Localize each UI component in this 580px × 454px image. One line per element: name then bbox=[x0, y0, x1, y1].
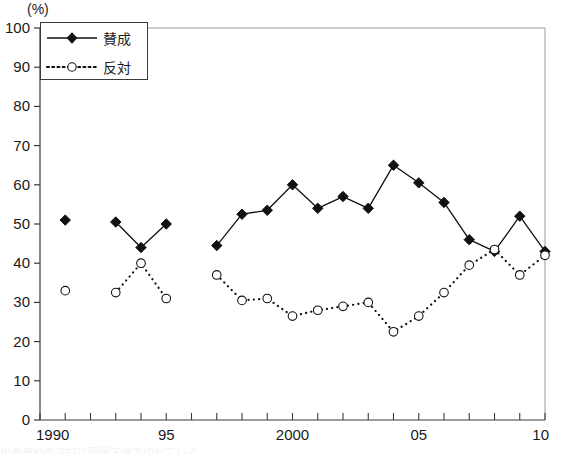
y-tick-label: 90 bbox=[0, 58, 30, 75]
legend-marker-open-circle-icon bbox=[41, 57, 103, 77]
x-tick-label: 1990 bbox=[36, 426, 69, 443]
y-tick-label: 70 bbox=[0, 137, 30, 154]
x-tick-label: 05 bbox=[410, 426, 427, 443]
y-tick-label: 20 bbox=[0, 333, 30, 350]
chart-axes bbox=[34, 28, 545, 420]
legend-item-approve: 賛成 bbox=[41, 23, 149, 52]
y-tick-label: 80 bbox=[0, 97, 30, 114]
y-tick-label: 0 bbox=[0, 411, 30, 428]
chart-container: (%) 0102030405060708090100 1990952000051… bbox=[0, 0, 580, 454]
y-tick-label: 100 bbox=[0, 19, 30, 36]
y-tick-label: 40 bbox=[0, 254, 30, 271]
x-tick-label: 2000 bbox=[276, 426, 309, 443]
clipped-footnote: 出典資料の注記は図版下端で切れている bbox=[0, 446, 580, 454]
legend-marker-filled-diamond-icon bbox=[41, 28, 103, 48]
chart-series bbox=[60, 160, 550, 336]
y-tick-label: 30 bbox=[0, 293, 30, 310]
legend-label-oppose: 反対 bbox=[103, 57, 131, 77]
y-tick-label: 60 bbox=[0, 176, 30, 193]
y-tick-label: 10 bbox=[0, 372, 30, 389]
chart-legend: 賛成 反対 bbox=[40, 22, 148, 80]
y-tick-label: 50 bbox=[0, 215, 30, 232]
x-tick-label: 95 bbox=[158, 426, 175, 443]
legend-item-oppose: 反対 bbox=[41, 52, 149, 81]
legend-label-approve: 賛成 bbox=[103, 28, 131, 48]
x-tick-label: 10 bbox=[532, 426, 549, 443]
